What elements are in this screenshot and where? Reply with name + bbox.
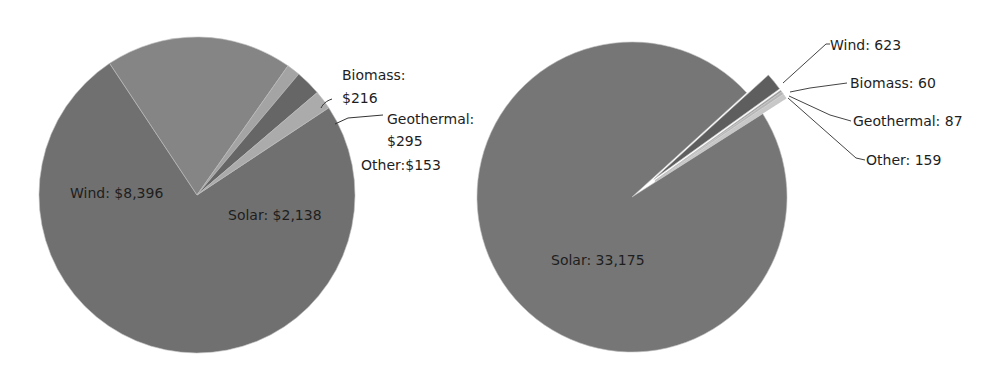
- label-other-right: Other: 159: [866, 152, 941, 168]
- pie-charts: Wind: $8,396 Solar: $2,138 Biomass: $216…: [0, 0, 1008, 383]
- slice-solar: [477, 42, 787, 352]
- label-biomass-right: Biomass: 60: [850, 75, 936, 91]
- label-biomass-left: Biomass:: [342, 67, 406, 83]
- label-other-left: Other:$153: [361, 157, 441, 173]
- pie-chart-right: [477, 42, 787, 352]
- leader-wind-right: [783, 44, 830, 83]
- label-solar-right: Solar: 33,175: [551, 252, 645, 268]
- label-biomass-value-left: $216: [342, 90, 378, 106]
- label-geothermal-left: Geothermal:: [387, 111, 474, 127]
- leader-other-right: [788, 98, 865, 160]
- label-geothermal-right: Geothermal: 87: [853, 113, 963, 129]
- label-geothermal-value-left: $295: [387, 133, 423, 149]
- label-wind-right: Wind: 623: [830, 37, 901, 53]
- label-wind-left: Wind: $8,396: [70, 185, 163, 201]
- leader-biomass-right: [790, 83, 847, 92]
- leader-geothermal-right: [789, 96, 851, 121]
- label-solar-left: Solar: $2,138: [228, 207, 322, 223]
- leader-geothermal-left: [335, 115, 383, 124]
